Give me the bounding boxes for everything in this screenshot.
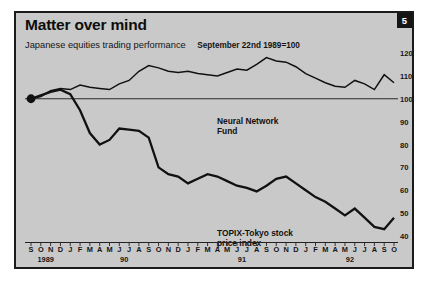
y-axis-tick-100: 100 [400,94,413,103]
x-axis-month-label: M [342,245,348,254]
x-axis-month-label: S [146,245,151,254]
x-axis-month-label: M [322,245,328,254]
y-axis-tick-80: 80 [400,140,408,149]
x-axis-month-label: F [196,245,201,254]
x-axis-year-label: 91 [238,255,246,264]
x-axis-year-label: 92 [346,255,354,264]
x-axis-month-label: M [87,245,93,254]
series-label-neural-network-fund: Neural Network Fund [217,117,278,136]
x-axis-month-label: M [106,245,112,254]
x-axis-month-label: N [283,245,288,254]
x-axis-month-label: O [156,245,162,254]
plot-area: Neural Network Fund TOPIX-Tokyo stock pr… [25,53,398,236]
x-axis-month-label: A [215,245,220,254]
start-point-marker [27,94,36,103]
x-axis-month-label: A [136,245,141,254]
x-axis-year-label: 90 [120,255,128,264]
x-axis-month-label: J [68,245,72,254]
x-axis-month-label: D [176,245,181,254]
y-axis-tick-40: 40 [400,232,408,241]
series-label-nn-line2: Fund [217,127,278,137]
x-axis-month-label: A [332,245,337,254]
x-axis-month-label: O [38,245,44,254]
x-axis-month-label: D [293,245,298,254]
x-axis-month-label: J [363,245,367,254]
y-axis-tick-90: 90 [400,117,408,126]
x-axis-month-label: A [372,245,377,254]
x-axis-month-label: J [304,245,308,254]
x-axis-month-label: D [58,245,63,254]
x-axis-month-label: O [273,245,279,254]
x-axis-month-label: J [127,245,131,254]
x-axis-month-label: J [235,245,239,254]
chart-subtitle: Japanese equities trading performance [25,40,186,50]
x-axis-month-labels: SONDJFMAMJJASONDJFMAMJJASONDJFMAMJJASO [25,245,398,256]
chart-basis-note: September 22nd 1989=100 [197,41,300,50]
x-axis-month-label: J [186,245,190,254]
x-axis-month-label: S [264,245,269,254]
x-axis-month-label: F [78,245,83,254]
x-axis-month-label: S [382,245,387,254]
issue-number-badge: 5 [397,13,412,28]
x-axis-month-label: M [224,245,230,254]
x-axis-month-label: J [353,245,357,254]
x-axis-month-label: J [245,245,249,254]
plot-background [25,53,398,236]
y-axis-tick-110: 110 [400,71,412,80]
sources-note: Sources: Datastream; Fujitsu [25,265,118,269]
y-axis-tick-60: 60 [400,186,408,195]
x-axis-year-label: 1989 [37,255,53,264]
chart-header: Matter over mind Japanese equities tradi… [16,13,412,53]
x-axis-month-label: F [313,245,318,254]
y-axis-tick-70: 70 [400,163,408,172]
chart-subtitle-row: Japanese equities trading performance Se… [25,34,300,52]
chart-card: Matter over mind Japanese equities tradi… [14,11,414,269]
x-axis-month-label: N [48,245,53,254]
x-axis-month-label: A [97,245,102,254]
x-axis-month-label: N [166,245,171,254]
y-axis-tick-120: 120 [400,49,413,58]
x-axis: SONDJFMAMJJASONDJFMAMJJASONDJFMAMJJASO 1… [25,236,398,268]
y-axis: 120110100908070605040 [400,53,414,236]
line-chart-svg [25,53,398,236]
y-axis-tick-50: 50 [400,209,408,218]
x-axis-month-label: S [29,245,34,254]
x-axis-month-label: M [205,245,211,254]
page-title: Matter over mind [25,16,147,34]
x-axis-month-label: O [391,245,397,254]
x-axis-month-label: A [254,245,259,254]
x-axis-month-label: J [117,245,121,254]
